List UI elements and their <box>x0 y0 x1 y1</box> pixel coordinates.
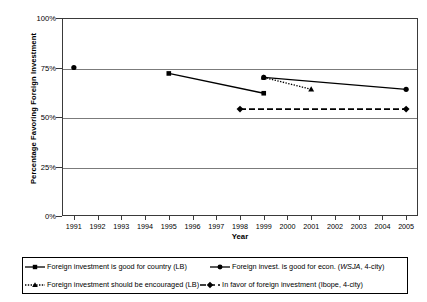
legend-label: Foreign investment should be encouraged … <box>47 281 199 288</box>
y-tick-mark <box>56 167 62 168</box>
x-tick-mark <box>359 216 360 220</box>
x-axis: 1991199219931994199519961997199819992000… <box>62 216 418 246</box>
circle-solid-icon <box>209 262 231 272</box>
legend-item[interactable]: Foreign investment is good for country (… <box>24 262 187 272</box>
y-tick-label: 100% <box>22 14 56 23</box>
diamond-dashed-icon <box>199 280 221 290</box>
gridline <box>63 118 417 119</box>
legend-row: Foreign investment should be encouraged … <box>23 276 407 294</box>
x-tick-mark <box>74 216 75 220</box>
legend-label: Foreign invest. is good for econ. (WSJA,… <box>232 263 385 270</box>
square-solid-icon <box>24 262 46 272</box>
x-tick-mark <box>287 216 288 220</box>
x-axis-title: Year <box>62 232 418 241</box>
x-tick-mark <box>335 216 336 220</box>
x-tick-mark <box>145 216 146 220</box>
legend-item[interactable]: Foreign investment should be encouraged … <box>24 280 199 290</box>
y-axis-labels: 0%25%50%75%100% <box>16 18 56 216</box>
x-tick-mark <box>98 216 99 220</box>
plot-area <box>62 18 418 216</box>
legend-marker <box>24 280 46 290</box>
legend-label: In favor of foreign investment (Ibope, 4… <box>222 281 363 288</box>
x-tick-mark <box>382 216 383 220</box>
triangle-dotted-icon <box>24 280 46 290</box>
x-tick-mark <box>240 216 241 220</box>
x-tick-mark <box>193 216 194 220</box>
x-tick-mark <box>216 216 217 220</box>
legend-marker <box>199 280 221 290</box>
x-tick-mark <box>311 216 312 220</box>
legend-row: Foreign investment is good for country (… <box>23 258 407 276</box>
y-tick-label: 50% <box>22 113 56 122</box>
chart-legend: Foreign investment is good for country (… <box>22 257 408 294</box>
gridline <box>63 69 417 70</box>
x-tick-mark <box>264 216 265 220</box>
x-tick-label: 2005 <box>389 222 423 231</box>
x-tick-mark <box>121 216 122 220</box>
x-tick-mark <box>406 216 407 220</box>
chart-container: Percentage Favoring Foreign Investment 0… <box>0 0 427 302</box>
y-tick-label: 75% <box>22 63 56 72</box>
legend-marker <box>24 262 46 272</box>
y-tick-mark <box>56 216 62 217</box>
y-tick-mark <box>56 18 62 19</box>
y-tick-mark <box>56 68 62 69</box>
legend-marker <box>209 262 231 272</box>
legend-label: Foreign investment is good for country (… <box>47 263 187 270</box>
x-tick-mark <box>169 216 170 220</box>
y-tick-label: 0% <box>22 212 56 221</box>
legend-item[interactable]: Foreign invest. is good for econ. (WSJA,… <box>209 262 385 272</box>
gridline <box>63 168 417 169</box>
legend-item[interactable]: In favor of foreign investment (Ibope, 4… <box>199 280 363 290</box>
y-tick-label: 25% <box>22 162 56 171</box>
y-tick-mark <box>56 117 62 118</box>
